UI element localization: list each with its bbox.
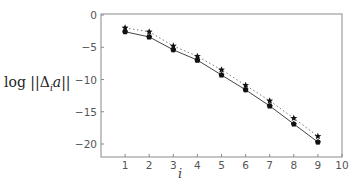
solid-line-dots-line [125, 32, 318, 142]
ylabel-log: log [4, 74, 30, 90]
y-tick-label: −5 [82, 41, 97, 53]
x-tick-label: 8 [290, 159, 297, 171]
x-tick-label: 4 [194, 159, 201, 171]
ylabel-arg: a [53, 74, 61, 90]
star-marker [314, 133, 321, 140]
plot-border [101, 14, 342, 157]
ylabel-norm: ||Δ [30, 74, 50, 90]
x-axis-label: i [178, 166, 182, 181]
y-axis-ticks: 0−5−10−15−20 [75, 9, 104, 150]
y-tick-label: −15 [75, 106, 97, 118]
chart: 0−5−10−15−20 12345678910 [0, 0, 360, 186]
series-layer [122, 24, 322, 145]
y-axis-label: log ||Δia|| [4, 74, 71, 93]
x-tick-label: 3 [170, 159, 177, 171]
x-tick-label: 7 [266, 159, 273, 171]
x-tick-label: 10 [335, 159, 348, 171]
x-tick-label: 1 [122, 159, 129, 171]
x-tick-label: 2 [146, 159, 153, 171]
ylabel-norm-close: || [61, 74, 70, 90]
y-tick-label: −20 [75, 138, 97, 150]
x-tick-label: 6 [242, 159, 249, 171]
y-tick-label: −10 [75, 74, 97, 86]
y-tick-label: 0 [90, 9, 97, 21]
plot-frame [101, 14, 342, 157]
x-tick-label: 9 [315, 159, 322, 171]
x-tick-label: 5 [218, 159, 225, 171]
